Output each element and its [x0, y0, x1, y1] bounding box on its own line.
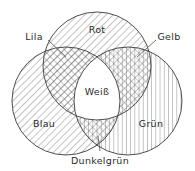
label-rot: Rot [89, 24, 106, 35]
label-lila: Lila [25, 31, 43, 42]
label-dunkelgruen: Dunkelgrün [71, 155, 129, 166]
label-gruen: Grün [139, 118, 164, 129]
venn-diagram: Rot Blau Grün Lila Gelb Dunkelgrün Weiß [0, 0, 195, 171]
label-weiss: Weiß [85, 86, 110, 97]
label-blau: Blau [33, 118, 55, 129]
label-gelb: Gelb [157, 31, 180, 42]
venn-diagram-canvas: Rot Blau Grün Lila Gelb Dunkelgrün Weiß [0, 0, 195, 171]
